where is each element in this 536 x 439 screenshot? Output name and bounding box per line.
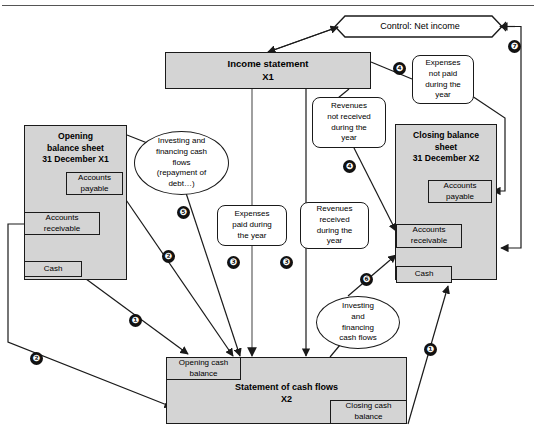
closing-cash-balance[interactable]: Closing cash balance — [330, 400, 407, 424]
inv-fin-left-line1: Investing and — [156, 136, 208, 147]
opening-cash-label: Cash — [42, 264, 65, 275]
opening-ar-line2: receivable — [42, 224, 82, 235]
revenues-received-box[interactable]: Revenues received during the year — [300, 202, 369, 249]
closing-accounts-receivable[interactable]: Accounts receivable — [396, 224, 462, 248]
revenues-received-line3: during the — [315, 226, 355, 237]
expenses-paid-line1: Expenses — [232, 209, 271, 220]
expenses-not-paid-line2: not paid — [427, 69, 459, 80]
closing-cash-label: Cash — [413, 269, 436, 280]
step-marker-m1a: ❶ — [129, 314, 142, 327]
income-statement-box[interactable]: Income statement X1 — [165, 52, 371, 89]
inv-fin-right-line2: and — [349, 312, 366, 323]
opening-bs-title-3: 31 December X1 — [25, 154, 126, 166]
inv-fin-right-line3: financing — [340, 323, 376, 334]
opening-cash[interactable]: Cash — [24, 261, 82, 277]
closing-cash-balance-line2: balance — [352, 412, 384, 423]
step-marker-m6: ❻ — [360, 273, 373, 286]
figure-canvas: Control: Net income Income statement X1 … — [0, 0, 536, 439]
inv-fin-left-line5: debt…) — [166, 179, 196, 190]
opening-accounts-payable[interactable]: Accounts payable — [66, 172, 123, 195]
revenues-not-received-line1: Revenues — [329, 101, 369, 112]
expenses-not-paid-box[interactable]: Expenses not paid during the year — [412, 55, 474, 104]
expenses-paid-line3: the year — [236, 231, 269, 242]
closing-accounts-payable[interactable]: Accounts payable — [428, 180, 492, 203]
opening-cash-balance-line1: Opening cash — [177, 358, 230, 369]
opening-ar-line1: Accounts — [44, 213, 81, 224]
opening-accounts-receivable[interactable]: Accounts receivable — [24, 212, 100, 235]
expenses-not-paid-line3: during the — [423, 80, 463, 91]
step-marker-m2a: ❷ — [162, 250, 175, 263]
opening-cash-balance-line2: balance — [187, 369, 219, 380]
closing-ar-line2: receivable — [409, 236, 449, 247]
investing-financing-right-ellipse[interactable]: Investing and financing cash flows — [316, 296, 400, 349]
step-marker-m1b: ❶ — [424, 343, 437, 356]
expenses-paid-box[interactable]: Expenses paid during the year — [217, 205, 287, 246]
revenues-received-line1: Revenues — [314, 204, 354, 215]
step-marker-m5: ❺ — [177, 206, 190, 219]
step-marker-m3b: ❸ — [280, 256, 293, 269]
opening-balance-sheet-box[interactable]: Opening balance sheet 31 December X1 — [24, 125, 127, 280]
opening-ap-line2: payable — [78, 184, 110, 195]
income-statement-year: X1 — [260, 71, 276, 84]
closing-bs-title-1: Closing balance — [396, 130, 496, 142]
inv-fin-right-line4: cash flows — [337, 333, 378, 344]
scf-title: Statement of cash flows — [167, 381, 406, 393]
closing-ap-line1: Accounts — [442, 181, 479, 192]
step-marker-m7: ❼ — [508, 40, 521, 53]
investing-financing-left-ellipse[interactable]: Investing and financing cash flows (repa… — [134, 131, 229, 195]
step-marker-m4b: ❹ — [343, 160, 356, 173]
expenses-not-paid-line4: year — [433, 90, 453, 101]
closing-ap-line2: payable — [444, 192, 476, 203]
control-hexagon-label: Control: Net income — [350, 21, 490, 31]
expenses-not-paid-line1: Expenses — [423, 58, 462, 69]
revenues-received-line2: received — [317, 215, 351, 226]
closing-cash-balance-line1: Closing cash — [344, 401, 394, 412]
inv-fin-left-line3: flows — [170, 158, 192, 169]
opening-ap-line1: Accounts — [76, 173, 113, 184]
opening-bs-title-2: balance sheet — [25, 143, 126, 155]
step-marker-m2b: ❷ — [30, 352, 43, 365]
revenues-not-received-line2: not received — [325, 112, 373, 123]
revenues-not-received-line4: year — [339, 133, 359, 144]
expenses-paid-line2: paid during — [230, 220, 274, 231]
step-marker-m4a: ❹ — [393, 62, 406, 75]
income-statement-title: Income statement — [226, 58, 311, 71]
closing-bs-title-2: sheet — [396, 142, 496, 154]
inv-fin-right-line1: Investing — [340, 301, 376, 312]
revenues-not-received-box[interactable]: Revenues not received during the year — [312, 97, 386, 148]
step-marker-m3a: ❸ — [227, 256, 240, 269]
revenues-received-line4: year — [325, 236, 345, 247]
inv-fin-left-line2: financing cash — [154, 147, 209, 158]
inv-fin-left-line4: (repayment of — [155, 168, 208, 179]
opening-cash-balance[interactable]: Opening cash balance — [166, 357, 241, 380]
opening-bs-title-1: Opening — [25, 131, 126, 143]
revenues-not-received-line3: during the — [329, 123, 369, 134]
closing-bs-title-3: 31 December X2 — [396, 153, 496, 165]
closing-ar-line1: Accounts — [411, 225, 448, 236]
closing-cash[interactable]: Cash — [396, 266, 452, 283]
